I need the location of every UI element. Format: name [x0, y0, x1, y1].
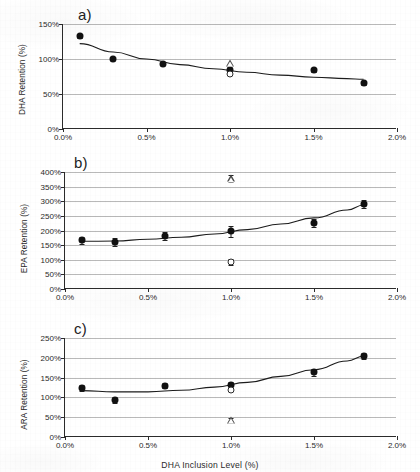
data-point-filled-circle	[78, 384, 85, 391]
y-tick-label: 400%	[41, 168, 61, 177]
panel-a-plot-area: 0%50%100%150%0.0%0.5%1.0%1.5%2.0%	[62, 24, 396, 129]
data-point-filled-circle	[160, 60, 167, 67]
data-point-filled-circle	[111, 238, 118, 245]
y-tick-label: 50%	[45, 413, 61, 422]
y-tick-label: 350%	[41, 182, 61, 191]
panel-c-tag: c)	[74, 320, 87, 337]
panel-c-y-axis-label: ARA Retention (%)	[20, 349, 29, 441]
y-tick-label: 150%	[41, 373, 61, 382]
y-tick-label: 100%	[41, 393, 61, 402]
panel-b-y-axis-label: EPA Retention (%)	[20, 193, 29, 285]
x-tick-label: 1.0%	[222, 293, 240, 302]
data-point-filled-circle	[228, 228, 235, 235]
x-tick-label: 2.0%	[388, 293, 406, 302]
x-tick-label: 1.5%	[305, 441, 323, 450]
y-tick-label: 50%	[43, 90, 59, 99]
data-point-filled-circle	[161, 233, 168, 240]
panel-b-plot-area: 0%50%100%150%200%250%300%350%400%0.0%0.5…	[64, 172, 396, 289]
y-tick-label: 50%	[45, 270, 61, 279]
x-tick-mark	[397, 436, 398, 440]
y-tick-label: 150%	[39, 20, 59, 29]
x-tick-mark	[397, 288, 398, 292]
chart-panel-c: c) ARA Retention (%) 0%50%100%150%200%25…	[0, 320, 420, 472]
data-point-open-triangle	[227, 416, 235, 423]
x-tick-label: 1.5%	[304, 133, 322, 142]
x-tick-label: 2.0%	[388, 133, 406, 142]
data-point-filled-circle	[360, 352, 367, 359]
data-point-open-circle	[227, 70, 234, 77]
data-point-filled-circle	[360, 79, 367, 86]
panel-c-plot-area: 0%50%100%150%200%250%0.0%0.5%1.0%1.5%2.0…	[64, 338, 396, 437]
x-tick-label: 0.0%	[54, 133, 72, 142]
error-bar-cap	[312, 227, 317, 228]
x-tick-label: 1.5%	[305, 293, 323, 302]
x-tick-label: 1.0%	[222, 441, 240, 450]
data-point-filled-circle	[110, 56, 117, 63]
data-point-filled-circle	[111, 397, 118, 404]
x-tick-label: 1.0%	[221, 133, 239, 142]
y-tick-label: 250%	[41, 334, 61, 343]
data-point-filled-circle	[311, 219, 318, 226]
error-bar-cap	[312, 376, 317, 377]
x-tick-label: 0.5%	[139, 441, 157, 450]
figure-x-axis-label: DHA Inclusion Level (%)	[0, 460, 420, 470]
y-tick-label: 200%	[41, 226, 61, 235]
data-point-filled-circle	[78, 237, 85, 244]
x-tick-label: 0.0%	[56, 293, 74, 302]
data-point-open-circle	[228, 387, 235, 394]
data-point-open-triangle	[226, 59, 234, 66]
panel-a-y-axis-label: DHA Retention (%)	[18, 35, 27, 125]
error-bar-cap	[112, 246, 117, 247]
y-tick-label: 150%	[41, 241, 61, 250]
data-point-open-circle	[228, 259, 235, 266]
x-tick-label: 0.5%	[139, 293, 157, 302]
error-bar-cap	[162, 240, 167, 241]
x-tick-label: 2.0%	[388, 441, 406, 450]
y-tick-label: 100%	[39, 55, 59, 64]
data-point-filled-circle	[161, 382, 168, 389]
error-bar-cap	[79, 244, 84, 245]
y-tick-label: 300%	[41, 197, 61, 206]
data-point-filled-circle	[310, 67, 317, 74]
error-bar-cap	[229, 237, 234, 238]
data-point-filled-circle	[76, 32, 83, 39]
x-tick-label: 0.5%	[137, 133, 155, 142]
y-tick-label: 200%	[41, 353, 61, 362]
error-bar-cap	[229, 182, 234, 183]
y-tick-label: 100%	[41, 255, 61, 264]
panel-b-tag: b)	[74, 154, 88, 171]
data-point-filled-circle	[360, 201, 367, 208]
panel-a-tag: a)	[78, 6, 92, 23]
chart-panel-a: a) DHA Retention (%) 0%50%100%150%0.0%0.…	[0, 0, 420, 152]
error-bar-cap	[361, 208, 366, 209]
x-tick-mark	[397, 128, 398, 132]
chart-panel-b: b) EPA Retention (%) 0%50%100%150%200%25…	[0, 152, 420, 320]
x-tick-label: 0.0%	[56, 441, 74, 450]
data-point-filled-circle	[311, 369, 318, 376]
data-point-open-triangle	[227, 175, 235, 182]
y-tick-label: 250%	[41, 211, 61, 220]
